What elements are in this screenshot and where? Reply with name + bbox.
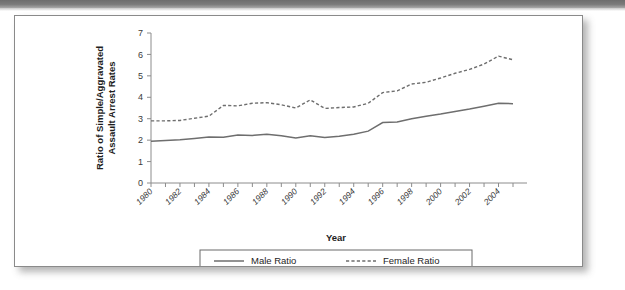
line-chart: 0123456719801982198419861988199019921994… [15, 16, 582, 266]
x-axis-title: Year [326, 232, 346, 243]
y-tick-label: 2 [138, 135, 143, 145]
y-tick-label: 4 [138, 92, 143, 102]
chart-svg: 0123456719801982198419861988199019921994… [15, 16, 582, 266]
y-tick-label: 0 [138, 178, 143, 188]
x-tick-label: 1982 [163, 186, 184, 207]
x-tick-label: 1992 [308, 186, 329, 207]
x-tick-label: 1980 [134, 186, 155, 207]
legend-label: Female Ratio [383, 255, 440, 266]
legend-label: Male Ratio [251, 255, 296, 266]
figure-panel: 0123456719801982198419861988199019921994… [14, 15, 583, 267]
y-tick-label: 3 [138, 114, 143, 124]
x-tick-label: 2002 [452, 186, 473, 207]
chart-legend: Male RatioFemale Ratio [200, 250, 472, 266]
x-tick-label: 1990 [279, 186, 300, 207]
x-tick-label: 1986 [221, 186, 242, 207]
y-axis-title-line1: Ratio of Simple/Aggravated [94, 46, 105, 170]
x-tick-label: 1984 [192, 186, 213, 207]
y-tick-label: 7 [138, 28, 143, 38]
x-tick-label: 2004 [481, 186, 502, 207]
y-tick-label: 6 [138, 50, 143, 60]
page-top-strip [0, 0, 625, 8]
y-tick-label: 1 [138, 157, 143, 167]
x-tick-label: 1994 [337, 186, 358, 207]
y-axis-title-line2: Assault Arrest Rates [106, 61, 117, 154]
x-tick-label: 1996 [366, 186, 387, 207]
x-tick-label: 1998 [395, 186, 416, 207]
x-tick-label: 2000 [423, 186, 444, 207]
scanned-page: 0123456719801982198419861988199019921994… [0, 0, 625, 290]
x-tick-label: 1988 [250, 186, 271, 207]
series-line-male-ratio [151, 103, 513, 141]
page-top-strip-edge [0, 8, 625, 11]
y-tick-label: 5 [138, 71, 143, 81]
